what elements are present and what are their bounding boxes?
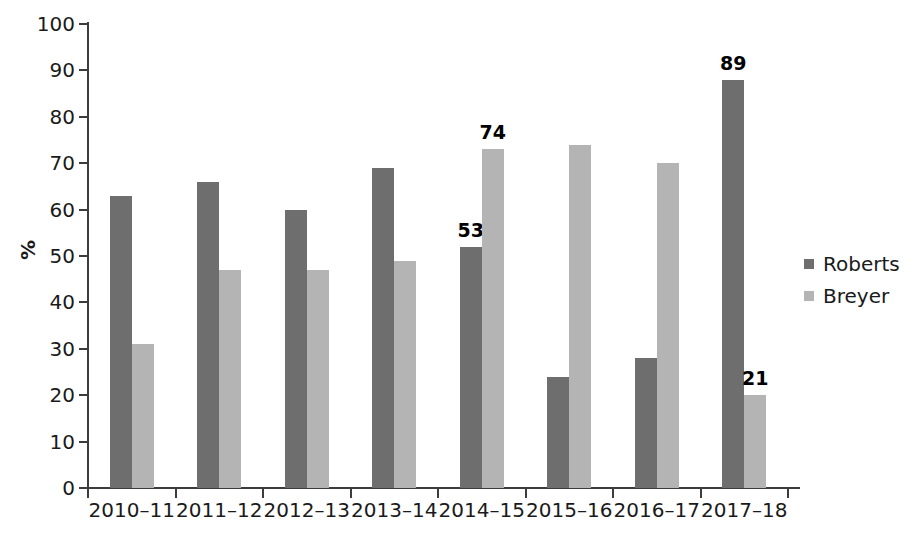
bar-breyer-2012-13[interactable] (307, 270, 329, 488)
x-axis-tick (87, 489, 89, 498)
x-axis-tick (175, 489, 177, 498)
x-axis-label-2017-18: 2017–18 (695, 500, 795, 520)
x-axis-label-2012-13: 2012–13 (257, 500, 357, 520)
y-axis-tick (79, 348, 87, 350)
bar-roberts-2016-17[interactable] (635, 358, 657, 488)
y-axis-tick-label: 80 (5, 107, 75, 127)
y-axis-tick-label: 40 (5, 292, 75, 312)
y-axis-tick-label: 100 (5, 14, 75, 34)
bar-breyer-2011-12[interactable] (219, 270, 241, 488)
x-axis-tick (437, 489, 439, 498)
legend-swatch-icon (804, 259, 814, 269)
y-axis-tick-label: 10 (5, 432, 75, 452)
plot-area: 53748921 (88, 24, 788, 488)
legend-item-roberts[interactable]: Roberts (804, 248, 900, 280)
bar-breyer-2013-14[interactable] (394, 261, 416, 488)
bar-roberts-2010-11[interactable] (110, 196, 132, 488)
bar-roberts-2017-18[interactable] (722, 80, 744, 488)
y-axis-tick-label: 60 (5, 200, 75, 220)
bar-breyer-2016-17[interactable] (657, 163, 679, 488)
bar-chart: % 1009080706050403020100 53748921 2010–1… (0, 0, 913, 548)
bar-value-label: 89 (708, 54, 758, 73)
y-axis-tick (79, 255, 87, 257)
chart-legend: RobertsBreyer (804, 248, 900, 312)
bar-breyer-2014-15[interactable] (482, 149, 504, 488)
y-axis-tick-label: 70 (5, 153, 75, 173)
y-axis-tick (79, 441, 87, 443)
x-axis-label-2011-12: 2011–12 (170, 500, 270, 520)
bar-roberts-2014-15[interactable] (460, 247, 482, 488)
y-axis-tick (79, 301, 87, 303)
y-axis-tick (79, 394, 87, 396)
x-axis-label-2016-17: 2016–17 (607, 500, 707, 520)
bar-roberts-2015-16[interactable] (547, 377, 569, 488)
bar-breyer-2017-18[interactable] (744, 395, 766, 488)
bar-value-label: 74 (468, 123, 518, 142)
bar-breyer-2010-11[interactable] (132, 344, 154, 488)
bar-roberts-2013-14[interactable] (372, 168, 394, 488)
y-axis-tick (79, 116, 87, 118)
x-axis-tick (700, 489, 702, 498)
x-axis-label-2015-16: 2015–16 (520, 500, 620, 520)
y-axis-tick-label: 30 (5, 339, 75, 359)
y-axis-tick-label: 20 (5, 385, 75, 405)
bar-value-label: 21 (730, 369, 780, 388)
y-axis-tick (79, 209, 87, 211)
y-axis-tick-label: 0 (5, 478, 75, 498)
x-axis-tick (525, 489, 527, 498)
bar-roberts-2012-13[interactable] (285, 210, 307, 488)
y-axis-tick (79, 162, 87, 164)
legend-label: Roberts (823, 254, 900, 274)
bar-roberts-2011-12[interactable] (197, 182, 219, 488)
x-axis-tick (350, 489, 352, 498)
bar-breyer-2015-16[interactable] (569, 145, 591, 488)
legend-item-breyer[interactable]: Breyer (804, 280, 900, 312)
x-axis-label-2013-14: 2013–14 (345, 500, 445, 520)
x-axis-label-2014-15: 2014–15 (432, 500, 532, 520)
x-axis-tick (787, 489, 789, 498)
y-axis-tick-label: 90 (5, 60, 75, 80)
y-axis-tick-label: 50 (5, 246, 75, 266)
x-axis-label-2010-11: 2010–11 (82, 500, 182, 520)
y-axis-tick (79, 487, 87, 489)
y-axis-tick (79, 69, 87, 71)
legend-label: Breyer (823, 286, 889, 306)
x-axis-tick (612, 489, 614, 498)
legend-swatch-icon (804, 291, 814, 301)
x-axis-tick (262, 489, 264, 498)
y-axis-tick (79, 23, 87, 25)
